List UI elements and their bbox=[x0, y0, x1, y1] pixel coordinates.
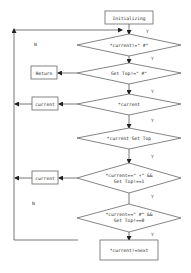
svg-text:Return: Return bbox=[36, 71, 53, 76]
decision-gettop-not-hash: Get Top!=" #" bbox=[77, 63, 181, 84]
svg-text:*current!=" #": *current!=" #" bbox=[110, 43, 149, 48]
svg-text:Get Top!==1: Get Top!==1 bbox=[114, 179, 145, 184]
svg-text:current: current bbox=[35, 102, 55, 107]
current-box-2: current bbox=[32, 171, 58, 184]
end-node: *current!=next bbox=[100, 240, 158, 260]
svg-text:*current==" +" &&: *current==" +" && bbox=[105, 173, 152, 178]
svg-text:*current Get Top: *current Get Top bbox=[107, 136, 151, 141]
svg-text:current: current bbox=[35, 176, 55, 181]
start-node: Initializing bbox=[105, 11, 153, 24]
svg-text:Get Top!==0: Get Top!==0 bbox=[114, 218, 145, 223]
svg-text:Y: Y bbox=[151, 118, 154, 123]
decision-current-not-hash: *current!=" #" bbox=[77, 34, 181, 56]
decision-current-hash-gettop-0: *current==" #" && Get Top!==0 bbox=[77, 204, 181, 232]
decision-current-gettop: *current Get Top bbox=[77, 128, 181, 149]
edge-label-y: Y bbox=[146, 29, 149, 34]
svg-text:Y: Y bbox=[151, 56, 154, 61]
current-box-1: current bbox=[32, 97, 58, 110]
svg-text:Y: Y bbox=[151, 194, 154, 199]
edge-label-n-bottom: N bbox=[32, 201, 35, 206]
svg-text:*current!=next: *current!=next bbox=[110, 248, 149, 253]
svg-text:*current==" #" &&: *current==" #" && bbox=[105, 212, 152, 217]
decision-current: *current bbox=[77, 94, 181, 115]
return-box: Return bbox=[31, 66, 57, 79]
svg-text:*current: *current bbox=[118, 102, 140, 107]
edge-label-y-end: Y bbox=[151, 232, 154, 237]
svg-text:Y: Y bbox=[151, 89, 154, 94]
edge-label-n-top: N bbox=[34, 42, 37, 47]
flowchart-canvas: Initializing Y N N *current!=" #" Y Get … bbox=[0, 0, 191, 273]
svg-text:Y: Y bbox=[151, 154, 154, 159]
start-node-label: Initializing bbox=[112, 16, 145, 21]
svg-text:Get Top!=" #": Get Top!=" #" bbox=[111, 71, 147, 76]
decision-current-plus-gettop-1: *current==" +" && Get Top!==1 bbox=[77, 163, 181, 193]
